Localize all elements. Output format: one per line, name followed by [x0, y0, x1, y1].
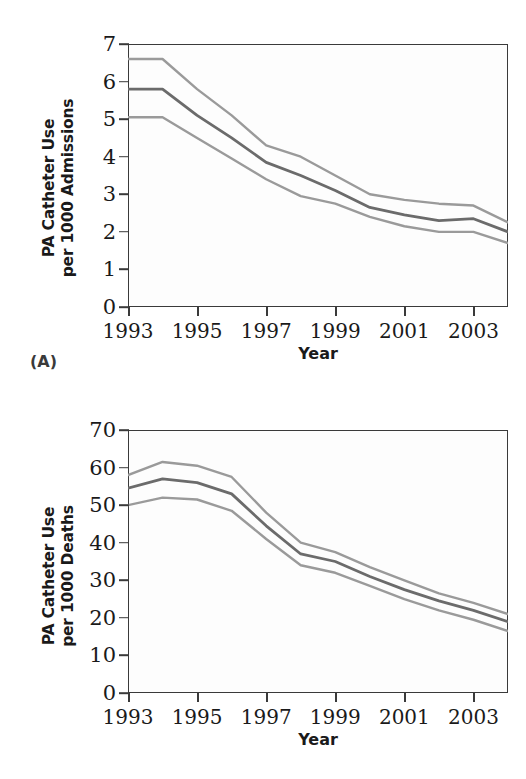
y-axis-tick-label: 40 — [72, 531, 116, 555]
plot-area-a — [128, 44, 508, 307]
series-line — [128, 89, 508, 232]
x-axis-tick — [197, 693, 199, 702]
x-axis-tick-label: 1997 — [241, 705, 292, 729]
y-axis-tick-label: 30 — [72, 568, 116, 592]
y-axis-tick-label: 10 — [72, 643, 116, 667]
y-axis-tick-label: 0 — [72, 295, 116, 319]
y-axis-tick — [119, 467, 129, 469]
x-axis-tick-label: 1995 — [172, 705, 223, 729]
x-axis-tick-label: 1995 — [172, 319, 223, 343]
x-axis-tick-label: 1993 — [103, 319, 154, 343]
y-axis-tick-label: 0 — [72, 681, 116, 705]
y-axis-tick — [119, 579, 129, 581]
y-axis-tick — [119, 617, 129, 619]
x-axis-tick — [335, 307, 337, 316]
y-axis-tick — [119, 81, 129, 83]
x-axis-tick-label: 2003 — [448, 705, 499, 729]
y-axis-tick-label: 5 — [72, 107, 116, 131]
x-axis-tick — [404, 693, 406, 702]
y-axis-tick-label: 4 — [72, 145, 116, 169]
x-axis-tick-label: 2003 — [448, 319, 499, 343]
y-axis-tick-label: 7 — [72, 32, 116, 56]
y-axis-tick-label: 3 — [72, 182, 116, 206]
x-axis-tick — [128, 307, 130, 316]
y-axis-tick — [119, 269, 129, 271]
y-axis-tick-label: 60 — [72, 456, 116, 480]
series-line — [128, 59, 508, 222]
y-axis-tick-label: 50 — [72, 493, 116, 517]
x-axis-tick-label: 2001 — [379, 319, 430, 343]
y-axis-tick-label: 70 — [72, 418, 116, 442]
series-line — [128, 498, 508, 631]
series-line — [128, 462, 508, 614]
chart-panel-a: PA Catheter Use per 1000 Admissions 0123… — [0, 0, 526, 390]
x-axis-tick — [128, 693, 130, 702]
x-axis-tick-label: 2001 — [379, 705, 430, 729]
y-axis-tick — [119, 231, 129, 233]
y-axis-tick — [119, 655, 129, 657]
x-axis-tick — [473, 693, 475, 702]
x-axis-tick — [197, 307, 199, 316]
y-axis-tick — [119, 193, 129, 195]
x-axis-tick — [404, 307, 406, 316]
x-axis-tick-label: 1993 — [103, 705, 154, 729]
y-axis-tick — [119, 43, 129, 45]
x-axis-tick-label: 1999 — [310, 705, 361, 729]
y-axis-tick-label: 2 — [72, 220, 116, 244]
y-axis-tick — [119, 504, 129, 506]
plot-area-b — [128, 430, 508, 693]
x-axis-tick — [473, 307, 475, 316]
x-axis-title-b: Year — [128, 730, 508, 749]
y-axis-tick — [119, 542, 129, 544]
panel-label-a: (A) — [30, 352, 57, 371]
x-axis-tick — [335, 693, 337, 702]
y-axis-tick — [119, 429, 129, 431]
series-lines-b — [128, 430, 508, 693]
y-axis-tick-label: 20 — [72, 606, 116, 630]
chart-panel-b: PA Catheter Use per 1000 Deaths 01020304… — [0, 390, 526, 779]
x-axis-title-a: Year — [128, 344, 508, 363]
y-axis-tick-label: 6 — [72, 70, 116, 94]
y-axis-tick-label: 1 — [72, 257, 116, 281]
y-axis-tick — [119, 156, 129, 158]
x-axis-tick — [266, 693, 268, 702]
y-axis-tick — [119, 118, 129, 120]
x-axis-tick-label: 1999 — [310, 319, 361, 343]
x-axis-tick — [266, 307, 268, 316]
series-lines-a — [128, 44, 508, 307]
x-axis-tick-label: 1997 — [241, 319, 292, 343]
series-line — [128, 117, 508, 243]
series-line — [128, 479, 508, 622]
